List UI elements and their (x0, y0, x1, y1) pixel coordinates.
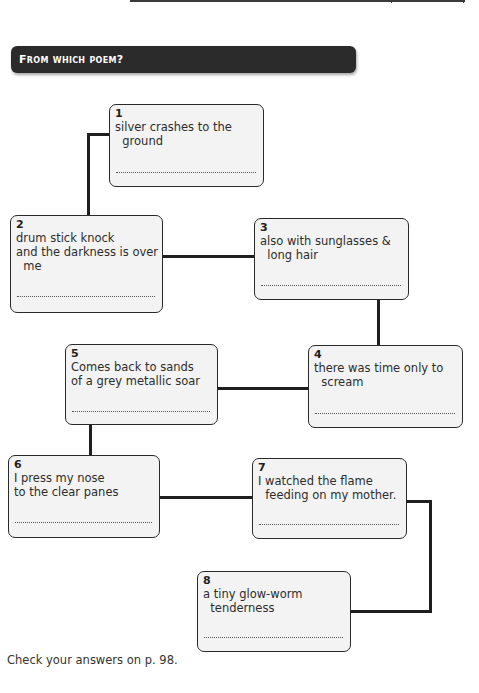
footer-note: Check your answers on p. 98. (7, 653, 178, 667)
connector-2-3 (161, 255, 255, 258)
quote-number: 6 (14, 459, 154, 471)
quote-text: also with sunglasses & long hair (260, 234, 403, 262)
connector-7-8-top (405, 500, 432, 503)
page-header-divider (391, 0, 392, 3)
answer-field[interactable] (261, 285, 401, 286)
quote-number: 8 (203, 575, 345, 587)
answer-field[interactable] (204, 637, 343, 638)
quote-box-2: 2 drum stick knock and the darkness is o… (10, 215, 163, 313)
quote-number: 3 (260, 222, 403, 234)
connector-7-8-bottom (349, 610, 432, 613)
section-banner: From which poem? (11, 46, 356, 73)
quote-box-7: 7 I watched the flame feeding on my moth… (252, 458, 407, 539)
quote-number: 5 (71, 348, 212, 360)
answer-field[interactable] (315, 413, 455, 414)
connector-5-6 (89, 423, 92, 456)
answer-field[interactable] (72, 411, 210, 412)
quote-box-1: 1 silver crashes to the ground (109, 104, 264, 187)
connector-4-5 (216, 387, 309, 390)
quote-box-6: 6 I press my nose to the clear panes (8, 455, 160, 538)
connector-3-4 (377, 298, 380, 346)
answer-field[interactable] (17, 296, 155, 297)
quote-box-5: 5 Comes back to sands of a grey metallic… (65, 344, 218, 425)
connector-1-2-horizontal (87, 133, 110, 136)
answer-field[interactable] (116, 172, 256, 173)
connector-7-8-vertical (429, 500, 432, 613)
quote-number: 2 (16, 219, 157, 231)
quote-number: 7 (258, 462, 401, 474)
connector-6-7 (158, 496, 253, 499)
quote-text: there was time only to scream (314, 361, 457, 389)
quote-text: I press my nose to the clear panes (14, 471, 154, 499)
page-header-divider-end (463, 0, 464, 3)
connector-1-2-vertical (87, 133, 90, 216)
quote-text: Comes back to sands of a grey metallic s… (71, 360, 212, 388)
quote-text: a tiny glow-worm tenderness (203, 587, 345, 615)
quote-box-4: 4 there was time only to scream (308, 345, 463, 428)
quote-box-3: 3 also with sunglasses & long hair (254, 218, 409, 300)
quote-box-8: 8 a tiny glow-worm tenderness (197, 571, 351, 652)
page-header-rule (130, 0, 465, 2)
quote-text: I watched the flame feeding on my mother… (258, 474, 401, 502)
section-title: From which poem? (19, 53, 123, 66)
quote-text: drum stick knock and the darkness is ove… (16, 231, 157, 273)
answer-field[interactable] (15, 522, 152, 523)
quote-number: 4 (314, 349, 457, 361)
quote-number: 1 (115, 108, 258, 120)
answer-field[interactable] (259, 524, 399, 525)
quote-text: silver crashes to the ground (115, 120, 258, 148)
